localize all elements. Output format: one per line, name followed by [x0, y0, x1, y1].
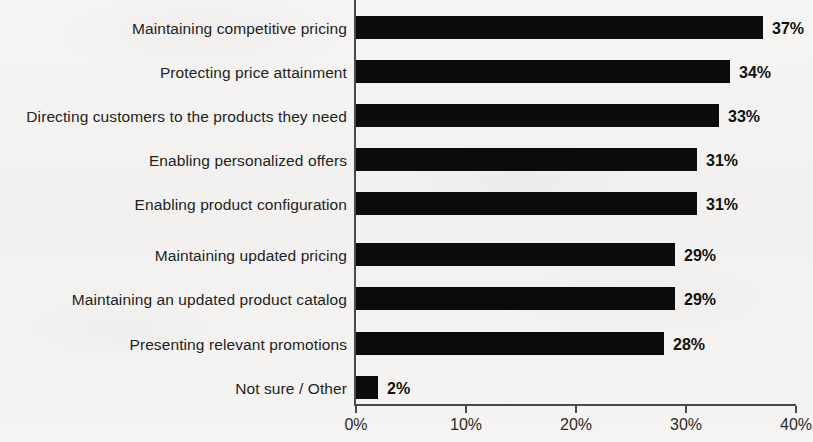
x-axis-tick-label: 40%	[780, 416, 812, 434]
bar-value-label: 34%	[739, 65, 771, 81]
plot-area: Maintaining competitive pricing Protecti…	[0, 0, 813, 442]
x-axis-tick	[465, 406, 467, 413]
bar-value-label: 29%	[684, 248, 716, 264]
bar-value-label: 31%	[706, 153, 738, 169]
y-axis-line	[354, 0, 356, 406]
category-label: Directing customers to the products they…	[0, 109, 347, 125]
category-label: Not sure / Other	[0, 381, 347, 397]
x-axis-tick-label: 0%	[344, 416, 367, 434]
bar-value-label: 37%	[772, 21, 804, 37]
x-axis-tick	[795, 406, 797, 413]
bar[interactable]	[356, 60, 730, 83]
bar[interactable]	[356, 243, 675, 266]
bar[interactable]	[356, 148, 697, 171]
bar[interactable]	[356, 192, 697, 215]
x-axis-tick	[575, 406, 577, 413]
bar-value-label: 28%	[673, 337, 705, 353]
x-axis-tick	[355, 406, 357, 413]
x-axis-tick-label: 10%	[450, 416, 482, 434]
category-label: Enabling product configuration	[0, 197, 347, 213]
bar[interactable]	[356, 16, 763, 39]
bar-value-label: 33%	[728, 109, 760, 125]
category-label: Protecting price attainment	[0, 65, 347, 81]
category-label: Presenting relevant promotions	[0, 337, 347, 353]
category-label: Enabling personalized offers	[0, 153, 347, 169]
bar-value-label: 2%	[387, 381, 410, 397]
bar-chart: Maintaining competitive pricing Protecti…	[0, 0, 813, 442]
bar-value-label: 31%	[706, 197, 738, 213]
bar[interactable]	[356, 287, 675, 310]
bar[interactable]	[356, 104, 719, 127]
category-label: Maintaining updated pricing	[0, 248, 347, 264]
bar-value-label: 29%	[684, 292, 716, 308]
bar[interactable]	[356, 376, 378, 399]
x-axis-tick-label: 30%	[670, 416, 702, 434]
x-axis-tick	[685, 406, 687, 413]
x-axis-tick-label: 20%	[560, 416, 592, 434]
bar[interactable]	[356, 332, 664, 355]
category-label: Maintaining competitive pricing	[0, 21, 347, 37]
category-label: Maintaining an updated product catalog	[0, 292, 347, 308]
